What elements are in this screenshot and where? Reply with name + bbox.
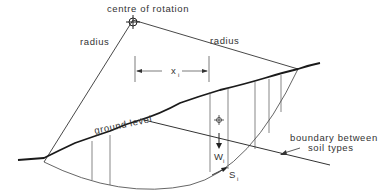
weight-arrow-head — [216, 143, 222, 149]
xi-arrow-left — [136, 69, 142, 73]
xi-subscript: i — [178, 72, 179, 78]
slice-centroid-icon — [214, 115, 224, 125]
slope-stability-diagram: x i W i S i centre of rotation radius ra… — [0, 0, 385, 192]
centre-of-rotation-label: centre of rotation — [107, 3, 189, 14]
ground-level-label: ground level — [93, 113, 153, 136]
boundary-arrowhead — [280, 150, 287, 155]
shear-label: S — [229, 169, 236, 180]
radius-label-left: radius — [80, 36, 109, 47]
slip-surface-arc — [44, 69, 298, 189]
xi-arrow-right — [202, 69, 208, 73]
centre-of-rotation-icon — [126, 15, 140, 29]
radius-label-right: radius — [210, 35, 239, 46]
xi-label: x — [171, 65, 176, 76]
shear-arrow-head — [221, 167, 228, 172]
boundary-label-line2: soil types — [308, 142, 354, 153]
weight-subscript: i — [223, 158, 224, 164]
shear-subscript: i — [237, 176, 238, 182]
